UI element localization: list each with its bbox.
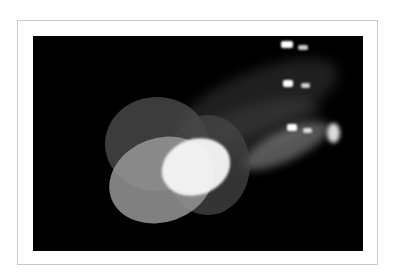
spotlight-lamp-top-label	[298, 45, 308, 50]
spotlight-lamp-middle	[283, 80, 293, 87]
spotlight-lamp-bottom-label	[303, 128, 312, 133]
spotlight-lamp-top	[281, 41, 293, 48]
spotlight-lamp-middle-label	[301, 83, 310, 88]
lamp-glow	[327, 123, 340, 143]
spotlight-photo	[33, 36, 363, 251]
spotlight-lamp-bottom	[287, 124, 297, 131]
